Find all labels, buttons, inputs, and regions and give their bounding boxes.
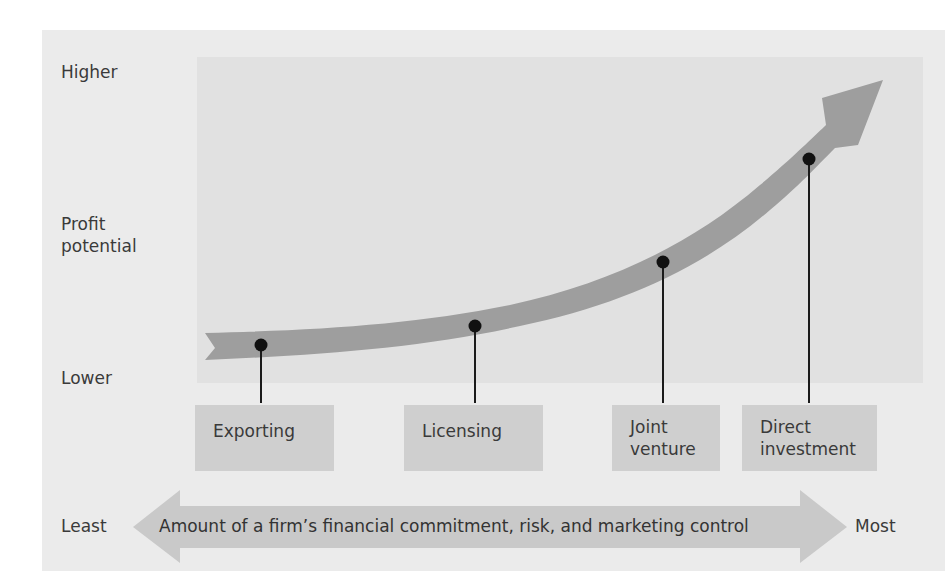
box-joint-venture: Joint venture: [612, 405, 720, 471]
box-exporting: Exporting: [195, 405, 334, 471]
box-joint-venture-line2: venture: [630, 438, 720, 460]
dot-exporting: [255, 339, 268, 352]
x-axis-title: Amount of a firm’s financial commitment,…: [159, 515, 821, 537]
box-direct-investment: Direct investment: [742, 405, 877, 471]
diagram-graphics: [0, 0, 947, 587]
dot-direct-investment: [803, 153, 816, 166]
box-licensing: Licensing: [404, 405, 543, 471]
dot-joint-venture: [657, 256, 670, 269]
profit-curve-arrow: [205, 80, 883, 360]
box-direct-investment-line1: Direct: [760, 416, 877, 438]
box-exporting-label: Exporting: [213, 420, 334, 442]
box-joint-venture-line1: Joint: [630, 416, 720, 438]
box-direct-investment-line2: investment: [760, 438, 877, 460]
x-axis-right-label: Most: [855, 515, 896, 537]
x-axis-left-label: Least: [61, 515, 107, 537]
dot-licensing: [469, 320, 482, 333]
box-licensing-label: Licensing: [422, 420, 543, 442]
